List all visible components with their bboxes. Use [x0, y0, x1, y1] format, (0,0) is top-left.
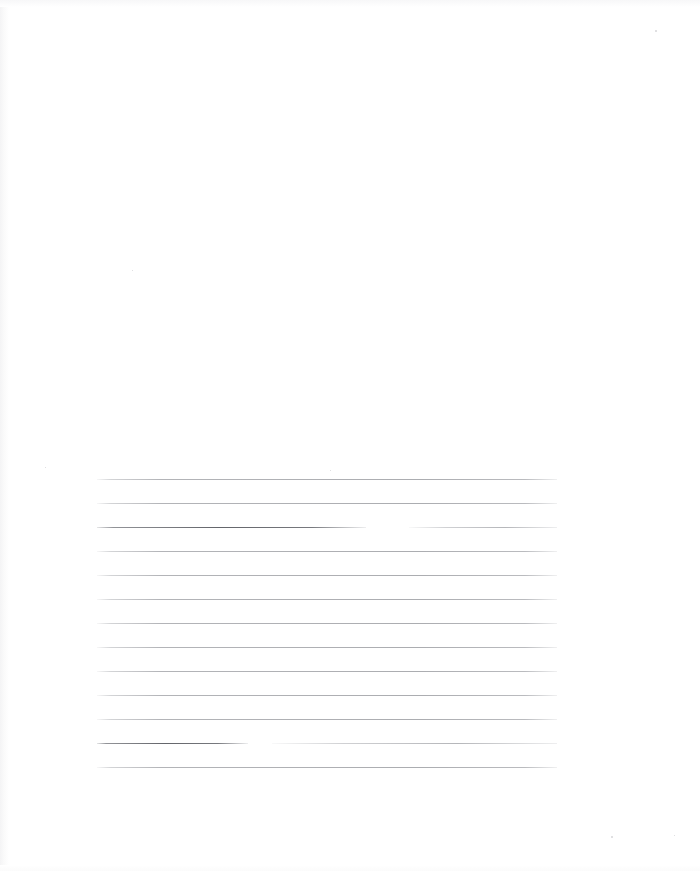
ruled-line-segment — [97, 599, 557, 600]
ruled-line-segment — [409, 527, 557, 528]
ruled-line — [97, 743, 557, 745]
ruled-line — [97, 575, 557, 577]
scanned-page — [0, 0, 700, 871]
ruled-line — [97, 647, 557, 649]
ruled-line-segment — [97, 479, 557, 480]
ruled-line-block — [0, 0, 700, 871]
ruled-line — [97, 551, 557, 553]
ruled-line — [97, 719, 557, 721]
ruled-line — [97, 695, 557, 697]
ruled-line-segment — [97, 647, 557, 648]
ruled-line-segment — [97, 719, 557, 720]
ruled-line — [97, 623, 557, 625]
ruled-line-segment — [97, 743, 248, 744]
ruled-line-segment — [97, 551, 557, 552]
ruled-line — [97, 671, 557, 673]
ruled-line-segment — [97, 623, 557, 624]
ruled-line-segment — [97, 527, 366, 528]
ruled-line-segment — [97, 695, 557, 696]
ruled-line — [97, 503, 557, 505]
ruled-line-segment — [97, 503, 557, 504]
ruled-line — [97, 479, 557, 481]
ruled-line — [97, 599, 557, 601]
ruled-line-segment — [97, 767, 557, 768]
ruled-line-segment — [97, 671, 557, 672]
ruled-line-segment — [272, 743, 557, 744]
ruled-line — [97, 527, 557, 529]
ruled-line-segment — [97, 575, 557, 576]
ruled-line — [97, 767, 557, 769]
